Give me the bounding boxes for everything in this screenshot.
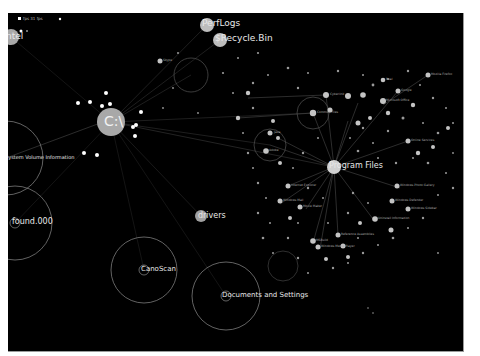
main-nodes[interactable] [8, 18, 341, 222]
rings [8, 58, 329, 330]
cluster-label[interactable]: Movie Maker [303, 205, 322, 208]
label-drivers[interactable]: drivers [198, 212, 226, 220]
cluster-label[interactable]: Real [386, 78, 392, 81]
cluster-label[interactable]: Windows Media Player [321, 245, 355, 248]
cluster-label[interactable]: Common Files [317, 111, 338, 114]
cluster-label[interactable]: Windows Photo Gallery [400, 184, 435, 187]
cluster-label[interactable]: Google [401, 89, 412, 92]
cluster-label[interactable]: Reference Assemblies [341, 233, 374, 236]
graph-canvas[interactable]: fps 31 fps C:\ PerfLogs $Recycle.Bin Pro… [8, 13, 464, 352]
cluster-label[interactable]: Adobe [269, 149, 279, 152]
cluster-label[interactable]: Windows Mail [283, 199, 303, 202]
cluster-label[interactable]: Mozilla Firefox [431, 73, 452, 76]
label-canoscan[interactable]: CanoScan [141, 266, 176, 273]
label-root[interactable]: C:\ [104, 114, 123, 128]
cluster-label[interactable]: Uninstall Information [378, 217, 409, 220]
cluster-label[interactable]: MSBuild [316, 239, 328, 242]
label-recycle[interactable]: $Recycle.Bin [215, 34, 273, 43]
label-perflogs[interactable]: PerfLogs [202, 19, 240, 28]
cluster-label[interactable]: Windows Sidebar [411, 207, 437, 210]
label-program-files[interactable]: Program Files [329, 162, 383, 170]
label-system-volume[interactable]: System Volume Information [8, 155, 74, 160]
cluster-label[interactable]: Java [274, 131, 280, 134]
cluster-label[interactable]: Online Services [411, 139, 434, 142]
cluster-label[interactable]: Skype [163, 59, 172, 62]
label-found[interactable]: found.000 [12, 218, 53, 226]
graph-svg[interactable] [8, 13, 463, 351]
label-documents[interactable]: Documents and Settings [222, 292, 308, 299]
fps-status: fps 31 fps [18, 16, 43, 21]
label-partial-left[interactable]: ntel [8, 32, 23, 41]
cluster-label[interactable]: Internet Explorer [291, 184, 316, 187]
cluster-label[interactable]: Cyberlink [330, 93, 344, 96]
status-dot-icon [18, 17, 21, 20]
cluster-label[interactable]: Microsoft Office [386, 99, 409, 102]
cluster-label[interactable]: Windows Defender [395, 199, 423, 202]
